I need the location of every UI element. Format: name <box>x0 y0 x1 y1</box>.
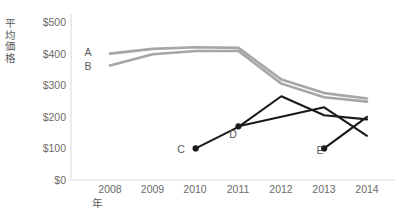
series-line-c <box>196 96 367 148</box>
chart-container: 平均価格 $500 $400 $300 $200 $100 $0 2008 20… <box>0 0 399 215</box>
series-marker-c <box>193 145 199 151</box>
x-tick-label: 2012 <box>269 183 292 195</box>
series-layer <box>110 47 367 151</box>
series-label-a: A <box>84 46 91 58</box>
x-tick-label: 2011 <box>227 183 250 195</box>
x-axis-title: 年 <box>92 195 102 210</box>
x-tick-label: 2008 <box>98 183 121 195</box>
x-tick-label: 2014 <box>355 183 378 195</box>
series-label-b: B <box>84 60 91 72</box>
series-label-c: C <box>177 143 185 155</box>
series-label-d: D <box>229 128 237 140</box>
x-tick-label: 2013 <box>312 183 335 195</box>
x-tick-label: 2010 <box>183 183 206 195</box>
series-label-e: E <box>316 144 323 156</box>
x-tick-label: 2009 <box>141 183 164 195</box>
